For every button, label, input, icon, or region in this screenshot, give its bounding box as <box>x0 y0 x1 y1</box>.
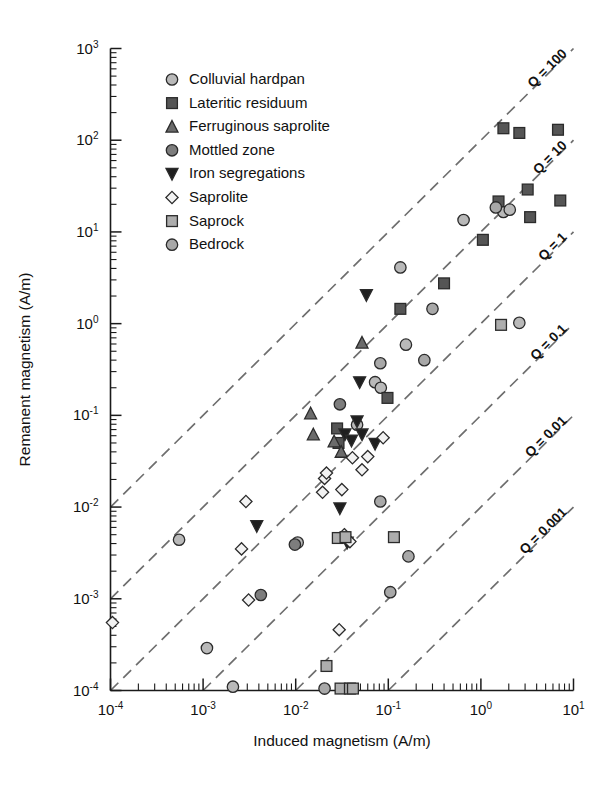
legend-marker <box>166 191 178 203</box>
data-point <box>496 319 507 330</box>
magnetism-scatter-figure: 10-410-310-210-110010110210310-410-310-2… <box>0 0 609 790</box>
data-point <box>514 317 525 328</box>
legend-item-colluvial-hardpan: Colluvial hardpan <box>166 70 305 87</box>
plot-canvas: 10-410-310-210-110010110210310-410-310-2… <box>0 0 609 790</box>
data-point <box>522 184 533 195</box>
data-points <box>106 123 565 694</box>
q-line-label: Q = 10 <box>530 138 570 177</box>
legend: Colluvial hardpanLateritic residuumFerru… <box>166 70 330 252</box>
data-point <box>243 594 255 606</box>
legend-marker <box>166 74 177 85</box>
data-point <box>362 451 374 463</box>
data-point <box>490 202 501 213</box>
svg-text:10-3: 10-3 <box>73 589 99 607</box>
data-point <box>227 681 238 692</box>
data-point <box>555 195 566 206</box>
data-point <box>389 532 400 543</box>
data-point <box>340 532 351 543</box>
data-point <box>514 128 525 139</box>
data-point <box>439 278 450 289</box>
data-point <box>333 624 345 636</box>
data-point <box>553 124 564 135</box>
svg-text:101: 101 <box>562 700 585 718</box>
data-point <box>395 303 406 314</box>
svg-text:10-4: 10-4 <box>73 681 99 699</box>
data-point <box>382 393 393 404</box>
data-point <box>240 495 252 507</box>
q-line-labels: Q = 100Q = 10Q = 1Q = 0.1Q = 0.01Q = 0.0… <box>517 46 570 557</box>
data-point <box>395 262 406 273</box>
svg-text:102: 102 <box>76 130 99 148</box>
series-bedrock <box>319 202 502 695</box>
data-point <box>375 358 386 369</box>
legend-label: Saprolite <box>189 188 248 205</box>
legend-marker <box>166 169 178 181</box>
data-point <box>251 521 263 533</box>
q-line-label: Q = 1 <box>535 229 570 264</box>
data-point <box>307 428 319 440</box>
data-point <box>173 534 184 545</box>
data-point <box>106 616 118 628</box>
svg-text:100: 100 <box>470 700 493 718</box>
data-point <box>419 354 430 365</box>
legend-item-iron-segregations: Iron segregations <box>166 164 305 181</box>
q-line-label: Q = 0.1 <box>527 321 570 363</box>
series-ferruginous-saprolite <box>305 336 368 457</box>
data-point <box>504 204 515 215</box>
legend-marker <box>167 216 178 227</box>
data-point <box>345 435 357 447</box>
data-point <box>477 234 488 245</box>
q-line-label: Q = 0.01 <box>522 412 570 460</box>
data-point <box>316 486 328 498</box>
data-point <box>334 503 346 515</box>
legend-label: Colluvial hardpan <box>189 70 305 87</box>
data-point <box>346 452 358 464</box>
svg-text:10-1: 10-1 <box>376 700 402 718</box>
legend-label: Bedrock <box>189 235 245 252</box>
data-point <box>334 399 345 410</box>
legend-label: Ferruginous saprolite <box>189 117 330 134</box>
data-point <box>319 683 330 694</box>
legend-label: Lateritic residuum <box>189 94 307 111</box>
svg-text:10-2: 10-2 <box>73 497 99 515</box>
axis-tick-labels: 10-410-310-210-110010110210310-410-310-2… <box>73 39 585 718</box>
legend-marker <box>166 121 178 133</box>
data-point <box>255 589 266 600</box>
legend-item-bedrock: Bedrock <box>166 235 244 252</box>
legend-label: Iron segregations <box>189 164 305 181</box>
legend-item-saprolite: Saprolite <box>166 188 248 205</box>
data-point <box>356 336 368 348</box>
legend-marker <box>166 239 177 250</box>
y-axis-title: Remanent magnetism (A/m) <box>16 273 33 467</box>
series-colluvial-hardpan <box>173 204 525 692</box>
data-point <box>458 214 469 225</box>
svg-text:101: 101 <box>76 222 99 240</box>
q-line-label: Q = 100 <box>525 46 570 91</box>
legend-marker <box>167 98 178 109</box>
data-point <box>498 123 509 134</box>
data-point <box>201 642 212 653</box>
data-point <box>385 586 396 597</box>
legend-item-lateritic-residuum: Lateritic residuum <box>167 94 308 111</box>
legend-marker <box>166 145 177 156</box>
svg-text:10-4: 10-4 <box>98 700 124 718</box>
data-point <box>289 539 300 550</box>
data-point <box>356 464 368 476</box>
legend-label: Mottled zone <box>189 141 275 158</box>
data-point <box>305 407 317 419</box>
data-point <box>354 377 366 389</box>
svg-text:10-3: 10-3 <box>190 700 216 718</box>
q-line-label: Q = 0.001 <box>517 504 570 557</box>
data-point <box>235 543 247 555</box>
data-point <box>360 290 372 302</box>
data-point <box>525 212 536 223</box>
data-point <box>336 484 348 496</box>
data-point <box>375 382 386 393</box>
svg-text:103: 103 <box>76 39 99 57</box>
svg-text:100: 100 <box>76 314 99 332</box>
koenigsberger-ratio-lines <box>111 49 574 691</box>
legend-label: Saprock <box>189 212 245 229</box>
legend-item-saprock: Saprock <box>167 212 245 229</box>
svg-text:10-2: 10-2 <box>283 700 309 718</box>
data-point <box>348 683 359 694</box>
